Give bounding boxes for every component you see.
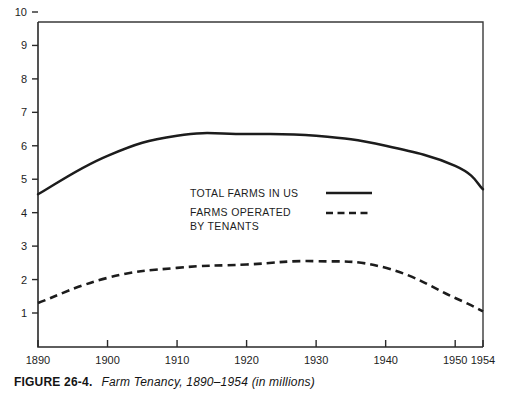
y-tick-label: 5: [21, 173, 27, 185]
x-tick-label: 1920: [234, 354, 258, 366]
x-tick-label: 1890: [26, 354, 50, 366]
legend-label-tenant-farms-line1: FARMS OPERATED: [190, 206, 291, 218]
chart-legend: TOTAL FARMS IN US FARMS OPERATED BY TENA…: [190, 187, 372, 232]
plot-axes: [38, 22, 483, 347]
y-tick-label: 7: [21, 106, 27, 118]
y-tick-label: 6: [21, 140, 27, 152]
y-tick-label: 1: [21, 307, 27, 319]
figure-caption: FIGURE 26-4. Farm Tenancy, 1890–1954 (in…: [14, 372, 494, 392]
y-tick-label: 4: [21, 207, 27, 219]
caption-figure-number: FIGURE 26-4.: [14, 375, 92, 389]
plot-frame: [38, 22, 483, 347]
y-tick-label: 10: [15, 6, 27, 18]
x-tick-label: 1910: [165, 354, 189, 366]
figure-container: 10987654321 1890190019101920193019401950…: [0, 0, 507, 398]
y-tick-label: 2: [21, 274, 27, 286]
y-tick-label: 9: [21, 39, 27, 51]
legend-label-total-farms: TOTAL FARMS IN US: [190, 187, 298, 199]
y-tick-label: 3: [21, 240, 27, 252]
series-total-farms-line: [38, 133, 483, 194]
x-tick-label: 1930: [304, 354, 328, 366]
x-tick-label: 1950: [443, 354, 467, 366]
x-axis-ticks: 18901900191019201930194019501954: [26, 340, 495, 366]
x-tick-label: 1900: [95, 354, 119, 366]
x-tick-label: 1940: [373, 354, 397, 366]
line-chart: 10987654321 1890190019101920193019401950…: [0, 0, 507, 372]
y-axis-ticks: 10987654321: [15, 6, 38, 319]
series-tenant-farms-line: [38, 261, 483, 311]
legend-label-tenant-farms-line2: BY TENANTS: [190, 220, 259, 232]
x-tick-label: 1954: [471, 354, 495, 366]
caption-title: Farm Tenancy, 1890–1954 (in millions): [101, 375, 315, 389]
y-tick-label: 8: [21, 73, 27, 85]
